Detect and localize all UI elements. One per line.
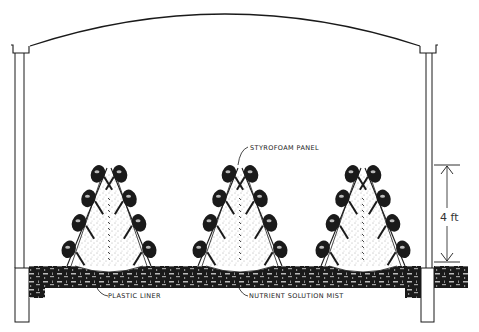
leaf-highlight: [380, 195, 385, 198]
plant-foliage: [313, 238, 332, 260]
leaf-highlight: [196, 246, 201, 249]
plant-foliage: [190, 238, 209, 260]
leaf-highlight: [348, 170, 353, 173]
leaf-highlight: [146, 246, 151, 249]
leaf-highlight: [248, 170, 253, 173]
leaf-highlight: [85, 195, 90, 198]
leaf-highlight: [277, 246, 282, 249]
aeroponic-diagram: STYROFOAM PANEL PLASTIC LINER NUTRIENT S…: [0, 0, 479, 332]
leaf-highlight: [225, 170, 230, 173]
leaf-highlight: [329, 219, 334, 222]
height-label: 4 ft: [440, 211, 459, 224]
nutrient-mist-label: NUTRIENT SOLUTION MIST: [249, 292, 344, 300]
leaf-highlight: [257, 195, 262, 198]
leaf-highlight: [126, 195, 131, 198]
leaf-highlight: [390, 219, 395, 222]
height-dimension: 4 ft: [434, 165, 460, 262]
mist-cone: [78, 174, 140, 266]
leaf-highlight: [75, 219, 80, 222]
a-frame-right: [313, 163, 413, 272]
leaf-highlight: [371, 170, 376, 173]
leaf-highlight: [65, 246, 70, 249]
leaf-highlight: [206, 219, 211, 222]
greenhouse-arch: [30, 14, 420, 46]
left-wall-post: [11, 45, 29, 322]
leaf-highlight: [117, 170, 122, 173]
leaf-highlight: [267, 219, 272, 222]
plant-foliage: [271, 238, 290, 260]
styrofoam-panel-label: STYROFOAM PANEL: [250, 144, 319, 152]
plant-foliage: [394, 238, 413, 260]
plant-foliage: [59, 238, 78, 260]
plant-foliage: [140, 238, 159, 260]
leaf-highlight: [216, 195, 221, 198]
leaf-highlight: [339, 195, 344, 198]
plastic-liner-label: PLASTIC LINER: [108, 292, 161, 300]
leaf-highlight: [136, 219, 141, 222]
mist-cone: [209, 174, 271, 266]
a-frame-left: [59, 163, 159, 272]
leaf-highlight: [94, 170, 99, 173]
a-frame-center: [190, 163, 290, 272]
leaf-highlight: [400, 246, 405, 249]
mist-cone: [332, 174, 394, 266]
leaf-highlight: [319, 246, 324, 249]
panel-leader-line: [238, 147, 248, 165]
